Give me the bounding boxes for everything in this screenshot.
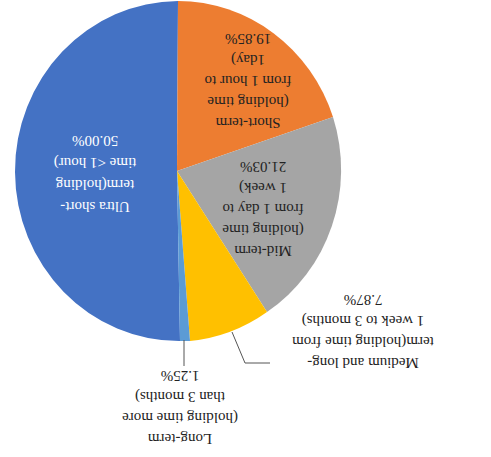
label-line: from 1 hour to <box>204 73 291 89</box>
label-line: term(holding time from <box>292 333 434 350</box>
label-line: Short-term <box>215 115 280 131</box>
label-value: 50.00% <box>72 133 118 149</box>
label-line: Mid-term <box>234 243 292 259</box>
pie-chart: Ultra short- term(holding time <1 hour) … <box>0 0 491 457</box>
label-medium-long-term: Medium and long- term(holding time from … <box>292 292 434 371</box>
label-line: (holding time more <box>122 409 238 426</box>
label-value: 19.85% <box>225 31 271 47</box>
label-line: Long-term <box>148 431 212 447</box>
label-line: (holding time <box>222 221 304 238</box>
label-line: 1day) <box>231 51 265 68</box>
label-line: term(holding <box>55 176 134 193</box>
label-line: Medium and long- <box>307 355 419 371</box>
label-line: from 1 day to <box>222 201 303 217</box>
leader-line-medium-long-term <box>232 332 270 363</box>
label-value: 7.87% <box>344 292 383 308</box>
label-line: than 3 months) <box>135 388 225 405</box>
label-value: 21.03% <box>240 159 286 175</box>
label-line: 1 week to 3 months) <box>302 312 424 329</box>
label-value: 1.25% <box>161 368 200 384</box>
label-line: Ultra short- <box>60 199 130 215</box>
label-long-term: Long-term (holding time more than 3 mont… <box>122 368 238 447</box>
label-line: 1 week) <box>239 179 287 196</box>
label-line: time <1 hour) <box>54 154 137 171</box>
label-line: (holding time <box>207 93 289 110</box>
